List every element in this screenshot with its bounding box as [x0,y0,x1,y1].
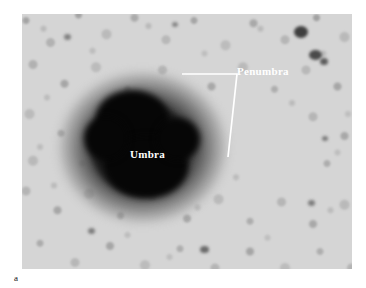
pore-right-mid [322,136,328,141]
figure-root: Penumbra Umbra a [0,0,366,288]
sunspot-body [44,60,234,235]
pore-top-mid [172,22,178,27]
pore-upper-right-3 [320,58,328,65]
pore-top-left [64,34,71,40]
pore-upper-right-1 [294,26,308,38]
umbra-lobe-left [84,116,128,160]
sunspot-photograph: Penumbra Umbra [22,14,352,269]
pore-lower-center [200,246,209,253]
pore-right-low [308,200,315,206]
figure-caption-label: a [14,274,18,283]
umbra-lobe-right [156,118,200,160]
